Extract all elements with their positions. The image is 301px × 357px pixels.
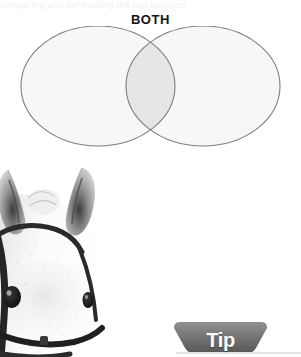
tip-banner[interactable]: Tip xyxy=(168,322,273,357)
venn-diagram-svg xyxy=(0,26,301,167)
horse-bridle-buckle xyxy=(40,336,48,345)
horse-right-eye-highlight xyxy=(85,295,88,299)
horse-right-eye xyxy=(83,292,94,308)
venn-diagram: BOTH xyxy=(0,12,301,167)
tip-underline-rule xyxy=(176,352,301,354)
horse-right-ear xyxy=(66,168,95,235)
worksheet-page: comparing and contrasting the two subjec… xyxy=(0,0,301,357)
horse-left-eye xyxy=(3,286,21,308)
horse-photo-svg xyxy=(0,166,142,357)
horse-left-eye-highlight xyxy=(7,290,12,296)
top-cropped-text: comparing and contrasting the two subjec… xyxy=(0,0,301,10)
horse-photo xyxy=(0,166,142,357)
tip-banner-label: Tip xyxy=(168,328,273,352)
